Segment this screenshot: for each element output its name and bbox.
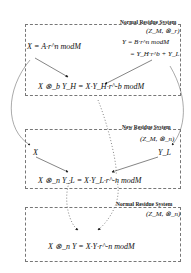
group-label-3: (Z_M, ⊗_n) bbox=[146, 210, 180, 218]
result-equation-2: X ⊗_n Y_L = X·Y_L·r^-n modM bbox=[38, 176, 141, 185]
group-label-2: (Z_M, ⊗_n) bbox=[140, 135, 174, 143]
y-equation: Y = B·r^n modM bbox=[122, 38, 169, 46]
y-split-equation: = Y_H·r^b + Y_L bbox=[130, 50, 179, 58]
result-equation-3: X ⊗_n Y = X·Y·r^-n modM bbox=[48, 242, 135, 251]
x-variable: X bbox=[33, 148, 38, 157]
yl-variable: Y_L bbox=[158, 148, 171, 157]
group-label-1: (Z_M, ⊗_r) bbox=[146, 27, 180, 35]
x-equation: X = A·r^n modM bbox=[27, 42, 81, 51]
result-equation-1: X ⊗_b Y_H = X·Y_H·r^-b modM bbox=[38, 82, 144, 91]
